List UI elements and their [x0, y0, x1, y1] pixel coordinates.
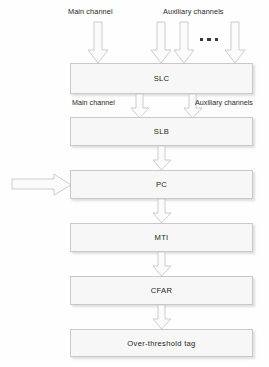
input-arrow-main-channel [87, 22, 109, 64]
arrow-external-input-to-pc [12, 173, 72, 197]
arrow-slc-to-slb-main [130, 94, 150, 119]
block-mti-label: MTI [155, 233, 169, 242]
block-slc[interactable]: SLC [70, 63, 253, 94]
block-slc-label: SLC [154, 74, 170, 83]
input-arrow-auxiliary-n [224, 22, 246, 64]
intermediate-label-main-channel: Main channel [72, 98, 115, 107]
input-arrow-auxiliary-1 [150, 22, 172, 64]
arrow-mti-to-cfar [152, 252, 172, 277]
block-diagram-canvas: Main channel Auxiliary channels SLC Main… [0, 0, 269, 367]
input-label-auxiliary-channels: Auxiliary channels [163, 7, 224, 16]
input-arrow-auxiliary-2 [173, 22, 195, 64]
block-over-threshold-tag[interactable]: Over-threshold tag [70, 329, 253, 357]
arrow-pc-to-mti [152, 199, 172, 224]
arrow-slb-to-pc [152, 146, 172, 171]
ellipsis-dots-icon [200, 38, 218, 41]
block-mti[interactable]: MTI [70, 223, 253, 252]
block-cfar-label: CFAR [151, 286, 172, 295]
intermediate-label-auxiliary-channels: Auxiliary channels [195, 98, 253, 107]
block-slb[interactable]: SLB [70, 117, 253, 146]
block-over-threshold-tag-label: Over-threshold tag [127, 339, 195, 348]
block-pc-label: PC [156, 180, 167, 189]
input-label-main-channel: Main channel [68, 7, 113, 16]
arrow-cfar-to-output [152, 305, 172, 330]
block-cfar[interactable]: CFAR [70, 276, 253, 305]
block-pc[interactable]: PC [70, 170, 253, 199]
block-slb-label: SLB [154, 127, 169, 136]
